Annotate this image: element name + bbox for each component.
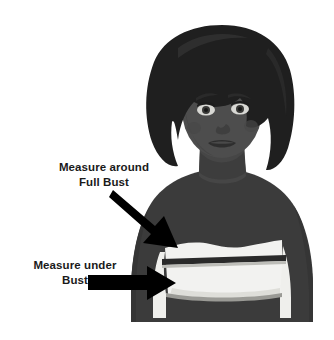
callout-full-bust-line-2: Full Bust — [44, 175, 164, 190]
callout-under-bust-line-1: Measure under — [12, 258, 138, 273]
callout-full-bust-line-1: Measure around — [44, 160, 164, 175]
callout-under-bust: Measure under Bust — [12, 258, 138, 288]
callout-under-bust-line-2: Bust — [12, 273, 138, 288]
right-cheek — [244, 120, 258, 132]
callout-full-bust: Measure around Full Bust — [44, 160, 164, 190]
bust-measurement-diagram: Measure around Full Bust Measure under B… — [0, 0, 334, 340]
left-cheek — [187, 122, 201, 134]
bust-band-shape — [165, 240, 283, 298]
